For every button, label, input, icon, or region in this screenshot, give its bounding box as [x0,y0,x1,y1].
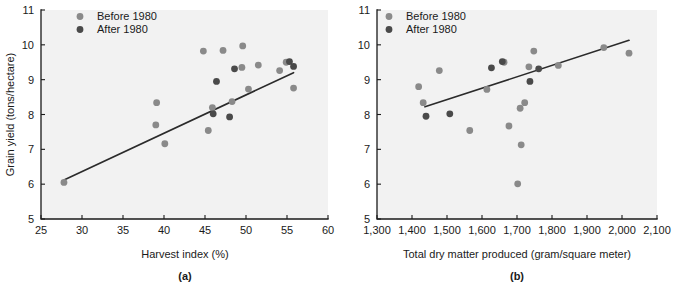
data-point [420,99,427,106]
x-tick-label: 1,300 [363,224,391,236]
y-tick-label: 7 [28,143,34,155]
x-tick-label: 55 [281,224,293,236]
data-point [209,104,216,111]
panel-b: 5678910111,3001,4001,5001,6001,7001,8001… [339,0,678,287]
plot-background [41,10,328,219]
y-tick-label: 8 [28,109,34,121]
data-point [200,48,207,55]
data-point [213,78,220,85]
data-point [61,179,68,186]
data-point [527,78,534,85]
y-tick-label: 5 [28,213,34,225]
x-tick-label: 2,000 [608,224,636,236]
legend-marker-icon [386,26,393,33]
data-point [436,67,443,74]
y-tick-label: 6 [28,178,34,190]
data-point [526,63,533,70]
y-tick-label: 9 [364,74,370,86]
y-tick-label: 11 [23,4,34,16]
y-tick-label: 10 [22,39,34,51]
y-tick-label: 10 [358,39,370,51]
data-point [626,50,633,57]
data-point [245,86,252,93]
data-point [530,48,537,55]
data-point [423,113,430,120]
data-point [521,99,528,106]
chart-b: 5678910111,3001,4001,5001,6001,7001,8001… [339,0,678,287]
data-point [466,127,473,134]
panel-a: 5678910112530354045505560Before 1980Afte… [0,0,339,287]
data-point [415,83,422,90]
data-point [239,64,246,71]
data-point [210,110,217,117]
plot-background [377,10,657,219]
x-tick-label: 1,600 [468,224,496,236]
y-tick-label: 8 [364,109,370,121]
data-point [488,64,495,71]
x-tick-label: 45 [199,224,211,236]
x-tick-label: 1,800 [538,224,566,236]
data-point [290,85,297,92]
legend-label: After 1980 [97,23,148,35]
data-point [153,99,160,106]
x-tick-label: 30 [76,224,88,236]
data-point [446,110,453,117]
legend-label: After 1980 [406,23,457,35]
data-point [555,62,562,69]
data-point [600,44,607,51]
x-tick-label: 1,900 [573,224,601,236]
data-point [220,47,227,54]
data-point [255,62,262,69]
data-point [514,180,521,187]
panel-caption: (a) [178,270,192,282]
y-axis-title: Grain yield (tons/hectare) [4,53,16,177]
x-tick-label: 60 [322,224,334,236]
y-tick-label: 9 [28,74,34,86]
y-tick-label: 7 [364,143,370,155]
x-tick-label: 25 [35,224,47,236]
chart-a: 5678910112530354045505560Before 1980Afte… [0,0,339,287]
data-point [517,105,524,112]
data-point [205,127,212,134]
y-tick-label: 6 [364,178,370,190]
legend-label: Before 1980 [97,10,157,22]
legend-marker-icon [386,13,393,20]
x-tick-label: 50 [240,224,252,236]
data-point [229,98,236,105]
x-axis-title: Harvest index (%) [141,248,228,260]
data-point [226,114,233,121]
data-point [499,58,506,65]
data-point [290,63,297,70]
x-axis-title: Total dry matter produced (gram/square m… [403,248,631,260]
data-point [535,65,542,72]
panel-caption: (b) [510,270,524,282]
data-point [276,67,283,74]
data-point [231,65,238,72]
x-tick-label: 2,100 [643,224,671,236]
legend-marker-icon [77,26,84,33]
legend-marker-icon [77,13,84,20]
legend-label: Before 1980 [406,10,466,22]
x-tick-label: 35 [117,224,129,236]
data-point [484,86,491,93]
x-tick-label: 1,400 [398,224,426,236]
y-tick-label: 11 [359,4,370,16]
x-tick-label: 1,500 [433,224,461,236]
data-point [506,123,513,130]
data-point [518,141,525,148]
data-point [152,122,159,129]
x-tick-label: 1,700 [503,224,531,236]
figure-container: 5678910112530354045505560Before 1980Afte… [0,0,678,287]
data-point [161,140,168,147]
data-point [239,42,246,49]
x-tick-label: 40 [158,224,170,236]
